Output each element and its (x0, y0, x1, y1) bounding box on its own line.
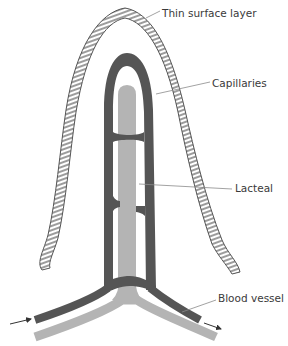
inflow-arrow-icon (10, 319, 31, 324)
label-capillaries: Capillaries (212, 78, 267, 89)
villus-diagram: Thin surface layer Capillaries Lacteal B… (0, 0, 288, 346)
lacteal (112, 85, 142, 300)
leader-capillaries (156, 82, 210, 94)
label-lacteal: Lacteal (235, 183, 273, 194)
label-thin-surface-layer: Thin surface layer (162, 8, 256, 19)
thin-surface-layer (40, 8, 240, 274)
leader-surface (146, 11, 160, 18)
lymph-vessel (35, 300, 216, 337)
leader-vessel (182, 300, 216, 312)
label-blood-vessel: Blood vessel (218, 293, 284, 304)
